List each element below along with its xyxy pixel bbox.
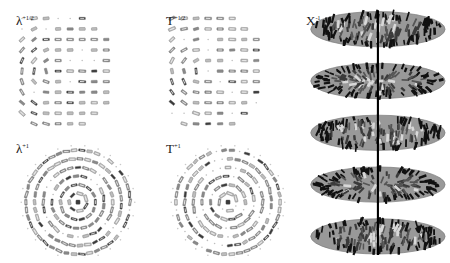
rod-element	[55, 80, 60, 83]
rod-element	[386, 244, 388, 250]
rod-element	[392, 39, 395, 46]
rod-element	[227, 157, 233, 160]
rod-element	[54, 184, 60, 191]
marker-dot	[33, 91, 35, 93]
rod-element	[91, 80, 97, 83]
rod-element	[381, 63, 384, 69]
rod-element	[70, 207, 76, 212]
marker-dot	[247, 148, 249, 150]
rod-element	[411, 135, 414, 142]
rod-element	[348, 15, 350, 23]
rod-element	[210, 207, 215, 213]
rod-element	[91, 28, 97, 31]
rod-element	[193, 159, 198, 165]
marker-dot	[243, 209, 245, 211]
rod-element	[54, 238, 60, 242]
rod-element	[429, 28, 431, 36]
marker-dot	[207, 70, 209, 72]
rod-element	[88, 222, 94, 227]
rod-element	[229, 183, 235, 187]
rod-element	[79, 91, 84, 94]
rod-element	[70, 193, 75, 198]
scientific-figure: λ+1/2 T+1/2 λ+1 T+1 X-1	[0, 0, 450, 263]
rod-element	[64, 213, 70, 218]
rod-element	[193, 17, 199, 20]
rod-element	[79, 28, 85, 31]
rod-element	[43, 171, 48, 177]
marker-dot	[231, 60, 233, 62]
marker-dot	[277, 175, 279, 177]
rod-element	[230, 71, 234, 72]
marker-dot	[270, 164, 272, 166]
rod-element	[270, 195, 273, 201]
panel-label-x-inverse: X-1	[306, 14, 320, 27]
rod-element	[68, 102, 72, 103]
rod-element	[43, 191, 46, 197]
rod-element	[193, 27, 199, 31]
rod-element	[229, 122, 235, 125]
rod-element	[51, 207, 56, 213]
marker-dot	[221, 244, 223, 246]
rod-element	[38, 222, 43, 228]
rod-element	[214, 213, 220, 218]
rod-element	[66, 176, 72, 181]
rod-element	[217, 38, 223, 41]
rod-element	[230, 39, 235, 40]
marker-dot	[206, 174, 208, 176]
marker-dot	[282, 215, 284, 217]
rod-element	[102, 203, 105, 209]
rod-element	[242, 71, 246, 72]
rod-element	[261, 225, 265, 231]
rod-element	[129, 192, 130, 196]
rod-element	[79, 101, 85, 104]
rod-element	[386, 171, 388, 176]
rod-element	[254, 59, 260, 62]
rod-element	[221, 183, 227, 187]
rod-element	[118, 211, 122, 217]
marker-dot	[231, 113, 233, 115]
rod-element	[217, 70, 223, 73]
rod-element	[244, 152, 250, 156]
marker-dot	[221, 158, 223, 160]
rod-element	[218, 102, 222, 103]
marker-dot	[196, 216, 198, 218]
marker-dot	[177, 175, 179, 177]
marker-dot	[233, 176, 235, 178]
marker-dot	[172, 188, 174, 190]
rod-element	[107, 184, 112, 190]
rod-element	[193, 101, 199, 104]
marker-dot	[259, 248, 261, 250]
marker-dot	[183, 39, 185, 41]
rod-element	[240, 231, 246, 236]
marker-dot	[235, 168, 237, 170]
marker-dot	[183, 113, 185, 115]
rod-element	[188, 221, 193, 227]
rod-element	[244, 199, 248, 205]
marker-dot	[96, 184, 98, 186]
rod-element	[80, 123, 84, 124]
rod-element	[254, 71, 258, 72]
rod-element	[381, 75, 383, 79]
rod-element	[218, 92, 222, 93]
rod-element	[242, 92, 246, 93]
rod-element	[206, 151, 212, 156]
marker-dot	[235, 205, 237, 207]
rod-element	[92, 39, 96, 40]
marker-dot	[134, 201, 136, 203]
rod-element	[372, 232, 375, 240]
marker-dot	[171, 113, 173, 115]
rod-element	[363, 136, 366, 142]
rod-element	[67, 234, 73, 238]
rod-element	[206, 249, 212, 253]
rod-element	[170, 68, 174, 74]
rod-element	[206, 92, 210, 93]
rod-element	[229, 149, 235, 152]
marker-dot	[214, 160, 216, 162]
marker-dot	[45, 155, 47, 157]
rod-element	[420, 180, 428, 183]
rod-element	[242, 113, 246, 114]
rod-element	[372, 122, 375, 128]
rod-element	[31, 79, 37, 85]
rod-element	[244, 182, 250, 187]
marker-dot	[225, 227, 227, 229]
